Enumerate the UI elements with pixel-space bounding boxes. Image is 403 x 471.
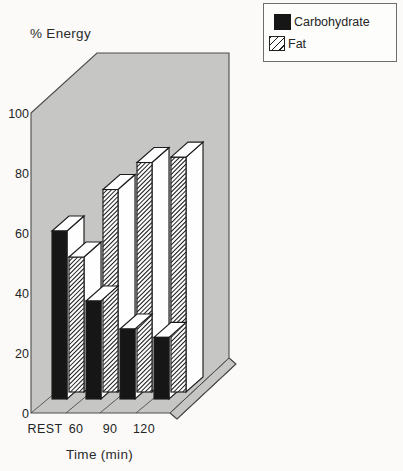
- bar-carbohydrate-120: [154, 337, 169, 399]
- legend-label-fat: Fat: [288, 37, 306, 51]
- legend-label-carbohydrate: Carbohydrate: [294, 15, 370, 29]
- chart-title: % Energy: [30, 26, 91, 41]
- y-tick-label-60: 60: [15, 227, 29, 241]
- y-tick-label-80: 80: [15, 167, 29, 181]
- carbohydrate-swatch-icon: [274, 14, 291, 30]
- fat-swatch-icon: [269, 36, 285, 51]
- bar-carbohydrate-60: [86, 301, 101, 399]
- x-category-label-60: 60: [69, 422, 84, 436]
- x-category-label-90: 90: [103, 422, 118, 436]
- y-tick-label-20: 20: [15, 347, 29, 361]
- x-axis-title: Time (min): [0, 447, 199, 462]
- figure-canvas: 100806040200REST6090120 % Energy Carbohy…: [0, 0, 403, 471]
- x-category-label-120: 120: [133, 422, 155, 436]
- y-tick-label-100: 100: [8, 107, 29, 121]
- bar-chart-3d: 100806040200REST6090120: [0, 0, 403, 471]
- y-tick-label-0: 0: [22, 407, 29, 421]
- legend: Carbohydrate Fat: [263, 3, 397, 62]
- x-category-label-REST: REST: [28, 422, 63, 436]
- bar-carbohydrate-90: [120, 329, 135, 399]
- legend-item-fat: Fat: [264, 33, 396, 55]
- bar-carbohydrate-REST: [52, 231, 67, 399]
- y-tick-label-40: 40: [15, 287, 29, 301]
- bar-fat-side-120: [186, 142, 203, 392]
- legend-item-carbohydrate: Carbohydrate: [264, 11, 396, 33]
